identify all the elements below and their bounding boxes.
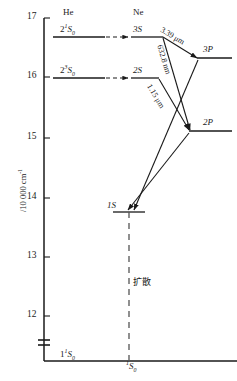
tick-label-15: 15	[27, 132, 37, 142]
tick-label-16: 16	[27, 71, 37, 81]
level-label-ne-2p: 2P	[203, 118, 213, 127]
tick-label-17: 17	[27, 12, 37, 22]
figure-canvas: 17 16 15 14 13 12 /10 000 cm-1 He Ne 21S…	[0, 0, 237, 381]
level-label-ne-ground: 1S0	[126, 362, 136, 371]
decay-3p-to-1s	[134, 60, 198, 210]
level-label-ne-1s: 1S	[107, 201, 116, 210]
he-ground-sub: 0	[72, 355, 75, 361]
level-label-ne-2s: 2S	[133, 66, 142, 75]
tick-label-12: 12	[27, 310, 37, 320]
level-label-he-triplet: 23S0	[60, 66, 75, 75]
tick-label-13: 13	[27, 251, 37, 261]
decay-2p-to-1s	[128, 133, 189, 210]
level-label-he-singlet: 21S0	[60, 25, 75, 34]
y-axis-title-exponent: -1	[17, 169, 23, 174]
he-triplet-sub: 0	[72, 71, 75, 77]
diffusion-label: 扩散	[133, 278, 151, 287]
y-axis-title: /10 000 cm-1	[18, 169, 28, 212]
y-axis-title-text: /10 000 cm	[18, 174, 28, 212]
level-label-ne-3s: 3S	[133, 25, 142, 34]
he-singlet-sub: 0	[72, 30, 75, 36]
ne-ground-sub: 0	[133, 367, 136, 373]
column-header-helium: He	[63, 8, 74, 17]
tick-label-14: 14	[27, 192, 37, 202]
level-label-he-ground: 11S0	[60, 350, 75, 359]
column-header-neon: Ne	[133, 8, 144, 17]
level-label-ne-3p: 3P	[203, 45, 213, 54]
